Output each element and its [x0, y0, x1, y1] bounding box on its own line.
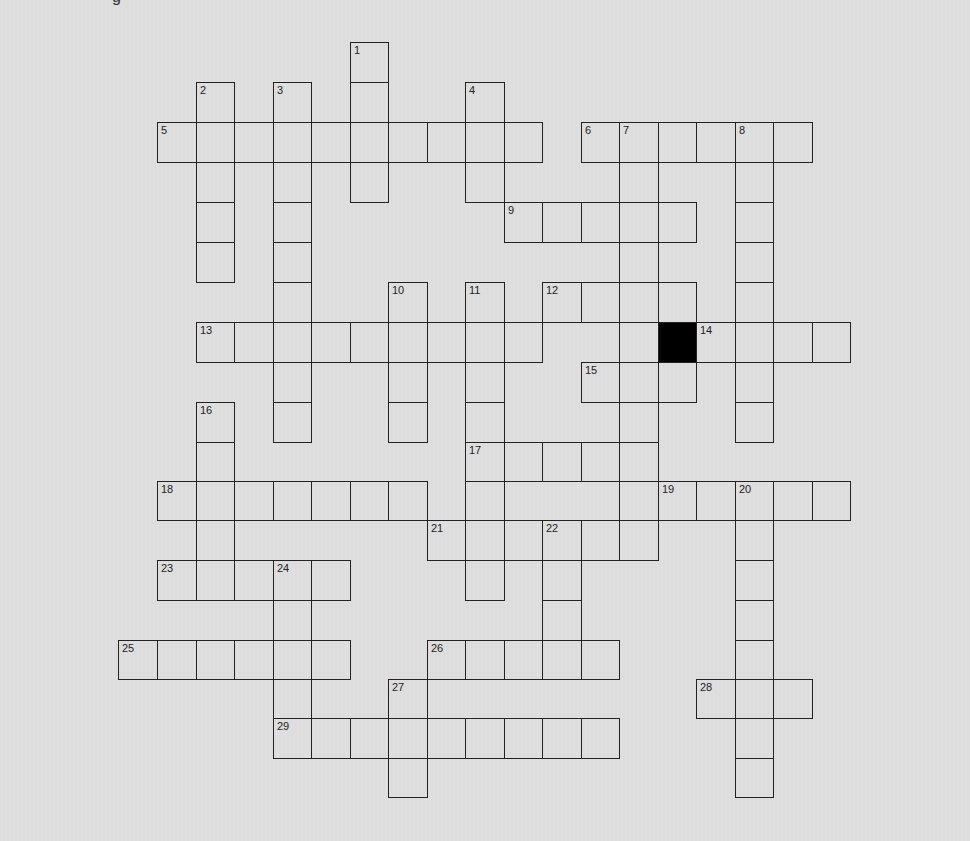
crossword-cell[interactable] [427, 122, 466, 163]
crossword-cell[interactable] [388, 322, 428, 363]
crossword-cell[interactable] [465, 718, 505, 759]
crossword-cell[interactable] [735, 679, 774, 719]
crossword-cell[interactable]: 17 [465, 442, 505, 482]
crossword-cell[interactable] [735, 600, 774, 641]
crossword-cell[interactable] [388, 122, 428, 163]
crossword-cell[interactable] [581, 640, 620, 680]
crossword-cell[interactable] [196, 242, 235, 283]
crossword-cell[interactable] [273, 679, 312, 719]
crossword-cell[interactable]: 27 [388, 679, 428, 719]
crossword-cell[interactable] [234, 640, 274, 680]
crossword-cell[interactable]: 21 [427, 520, 466, 561]
crossword-cell[interactable] [234, 560, 274, 601]
crossword-cell[interactable] [273, 282, 312, 323]
crossword-cell[interactable] [273, 242, 312, 283]
crossword-cell[interactable]: 12 [542, 282, 582, 323]
crossword-cell[interactable] [658, 362, 697, 403]
crossword-cell[interactable] [350, 322, 389, 363]
crossword-cell[interactable] [735, 242, 774, 283]
crossword-cell[interactable]: 22 [542, 520, 582, 561]
crossword-cell[interactable] [273, 362, 312, 403]
crossword-cell[interactable] [234, 322, 274, 363]
crossword-cell[interactable] [773, 322, 813, 363]
crossword-cell[interactable] [465, 520, 505, 561]
crossword-cell[interactable] [196, 481, 235, 521]
crossword-cell[interactable] [311, 640, 351, 680]
crossword-cell[interactable] [504, 322, 543, 363]
crossword-cell[interactable] [658, 122, 697, 163]
crossword-cell[interactable] [234, 122, 274, 163]
crossword-cell[interactable] [735, 402, 774, 443]
crossword-cell[interactable] [273, 122, 312, 163]
crossword-cell[interactable] [619, 442, 659, 482]
crossword-cell[interactable]: 25 [118, 640, 158, 680]
crossword-cell[interactable] [542, 640, 582, 680]
crossword-cell[interactable] [350, 82, 389, 123]
crossword-cell[interactable] [619, 242, 659, 283]
crossword-cell[interactable] [542, 600, 582, 641]
crossword-cell[interactable]: 5 [157, 122, 197, 163]
crossword-cell[interactable] [311, 481, 351, 521]
crossword-cell[interactable] [504, 442, 543, 482]
crossword-cell[interactable] [350, 718, 389, 759]
crossword-cell[interactable] [388, 481, 428, 521]
crossword-cell[interactable]: 6 [581, 122, 620, 163]
crossword-cell[interactable] [196, 162, 235, 203]
crossword-cell[interactable] [735, 162, 774, 203]
crossword-cell[interactable] [812, 322, 851, 363]
crossword-cell[interactable]: 18 [157, 481, 197, 521]
crossword-cell[interactable] [735, 362, 774, 403]
crossword-cell[interactable] [619, 520, 659, 561]
crossword-cell[interactable]: 11 [465, 282, 505, 323]
crossword-cell[interactable] [427, 322, 466, 363]
crossword-cell[interactable] [773, 122, 813, 163]
crossword-cell[interactable] [619, 481, 659, 521]
crossword-cell[interactable]: 29 [273, 718, 312, 759]
crossword-cell[interactable] [196, 122, 235, 163]
crossword-cell[interactable] [619, 362, 659, 403]
crossword-cell[interactable] [735, 282, 774, 323]
crossword-cell[interactable]: 3 [273, 82, 312, 123]
crossword-cell[interactable]: 1 [350, 42, 389, 83]
crossword-cell[interactable] [234, 481, 274, 521]
crossword-cell[interactable] [542, 202, 582, 243]
crossword-cell[interactable] [542, 560, 582, 601]
crossword-cell[interactable] [465, 560, 505, 601]
crossword-cell[interactable] [273, 640, 312, 680]
crossword-cell[interactable]: 23 [157, 560, 197, 601]
crossword-cell[interactable] [542, 718, 582, 759]
crossword-cell[interactable] [196, 520, 235, 561]
crossword-cell[interactable] [311, 322, 351, 363]
crossword-cell[interactable] [311, 560, 351, 601]
crossword-cell[interactable]: 2 [196, 82, 235, 123]
crossword-cell[interactable] [350, 481, 389, 521]
crossword-cell[interactable] [427, 718, 466, 759]
crossword-cell[interactable]: 14 [696, 322, 736, 363]
crossword-cell[interactable] [273, 481, 312, 521]
crossword-cell[interactable] [735, 202, 774, 243]
crossword-cell[interactable] [504, 640, 543, 680]
crossword-cell[interactable]: 8 [735, 122, 774, 163]
crossword-cell[interactable] [273, 202, 312, 243]
crossword-cell[interactable] [581, 718, 620, 759]
crossword-cell[interactable] [542, 442, 582, 482]
crossword-cell[interactable] [465, 402, 505, 443]
crossword-cell[interactable] [196, 640, 235, 680]
crossword-cell[interactable] [465, 481, 505, 521]
crossword-cell[interactable] [773, 679, 813, 719]
crossword-cell[interactable] [696, 481, 736, 521]
crossword-cell[interactable] [581, 442, 620, 482]
crossword-cell[interactable]: 13 [196, 322, 235, 363]
crossword-cell[interactable] [735, 520, 774, 561]
crossword-cell[interactable]: 16 [196, 402, 235, 443]
crossword-cell[interactable] [735, 758, 774, 798]
crossword-cell[interactable] [504, 122, 543, 163]
crossword-cell[interactable] [735, 640, 774, 680]
crossword-cell[interactable] [658, 282, 697, 323]
crossword-cell[interactable] [465, 640, 505, 680]
crossword-cell[interactable] [619, 202, 659, 243]
crossword-cell[interactable] [504, 520, 543, 561]
crossword-cell[interactable] [504, 718, 543, 759]
crossword-cell[interactable] [465, 122, 505, 163]
crossword-cell[interactable] [465, 162, 505, 203]
